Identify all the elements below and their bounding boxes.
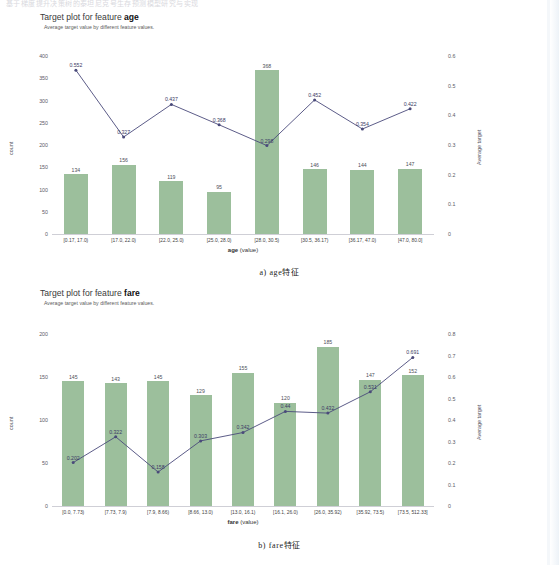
line-point-value-label: 0.531 bbox=[350, 384, 390, 390]
line-point-value-label: 0.452 bbox=[295, 92, 335, 98]
line-point-value-label: 0.437 bbox=[151, 96, 191, 102]
x-axis-name: age (value) bbox=[52, 247, 434, 253]
line-point-value-label: 0.368 bbox=[199, 117, 239, 123]
line-point-value-label: 0.422 bbox=[390, 101, 430, 107]
line-point-value-label: 0.44 bbox=[265, 403, 305, 409]
x-axis-name: fare (value) bbox=[52, 519, 434, 525]
plot-area-fare: 05010015020000.10.20.30.40.50.60.70.8cou… bbox=[0, 286, 559, 558]
line-point-value-label: 0.354 bbox=[342, 121, 382, 127]
line-point-value-label: 0.432 bbox=[308, 405, 348, 411]
line-point-value-label: 0.298 bbox=[247, 138, 287, 144]
line-point-value-label: 0.691 bbox=[393, 349, 433, 355]
line-point-value-label: 0.327 bbox=[104, 129, 144, 135]
figure-caption-b: b) fare特征 bbox=[0, 539, 559, 550]
line-point-value-label: 0.342 bbox=[223, 424, 263, 430]
line-point-value-label: 0.303 bbox=[181, 433, 221, 439]
document-page: 基于梯度提升决策树的泰坦尼克号生存预测模型研究与实现 Target plot f… bbox=[0, 0, 559, 565]
line-point-value-label: 0.202 bbox=[53, 455, 93, 461]
plot-area-age: 05010015020025030035040000.10.20.30.40.5… bbox=[0, 6, 559, 281]
figure-age-target-plot: Target plot for feature age Average targ… bbox=[0, 6, 559, 281]
line-point-value-label: 0.158 bbox=[138, 464, 178, 470]
line-point-value-label: 0.322 bbox=[96, 429, 136, 435]
line-point-value-label: 0.552 bbox=[56, 62, 96, 68]
figure-caption-a: a) age特征 bbox=[0, 266, 559, 277]
target-line-series bbox=[0, 286, 559, 558]
figure-fare-target-plot: Target plot for feature fare Average tar… bbox=[0, 286, 559, 558]
